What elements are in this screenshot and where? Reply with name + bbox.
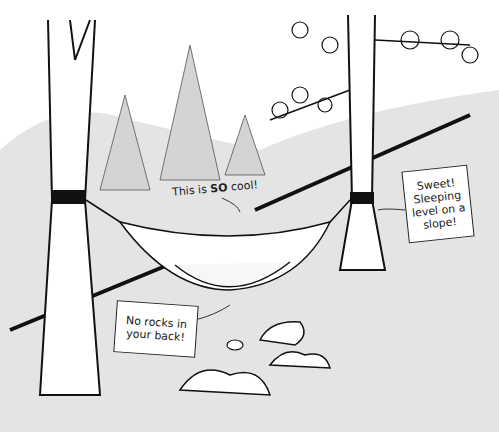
hammock-illustration: This is SO cool! Sweet! Sleeping level o… bbox=[0, 0, 499, 432]
speech-emphasis: SO bbox=[210, 181, 228, 195]
callout-text: Sweet! Sleeping level on a slope! bbox=[403, 175, 472, 233]
callout-sleeping-level: Sweet! Sleeping level on a slope! bbox=[401, 165, 474, 244]
speech-suffix: cool! bbox=[227, 178, 259, 194]
callout-text: No rocks in your back! bbox=[115, 313, 197, 345]
callout-no-rocks: No rocks in your back! bbox=[113, 300, 198, 358]
